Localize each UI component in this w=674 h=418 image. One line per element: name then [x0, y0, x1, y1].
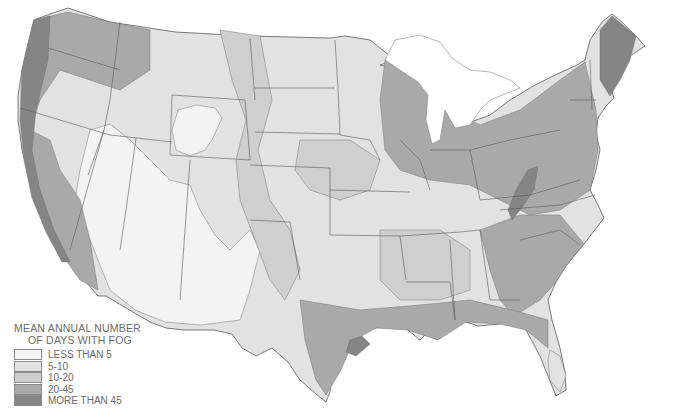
legend-label: 10-20	[48, 372, 74, 383]
legend-title-line2: OF DAYS WITH FOG	[14, 334, 194, 346]
zone-gt45-new-england	[600, 16, 636, 96]
legend: MEAN ANNUAL NUMBER OF DAYS WITH FOG LESS…	[14, 322, 194, 407]
legend-label: MORE THAN 45	[48, 395, 122, 406]
legend-label: LESS THAN 5	[48, 349, 112, 360]
legend-label: 5-10	[48, 361, 68, 372]
legend-swatch	[14, 395, 42, 406]
legend-item-20-45: 20-45	[14, 384, 194, 396]
legend-swatch	[14, 349, 42, 360]
legend-swatch	[14, 361, 42, 372]
legend-item-lt5: LESS THAN 5	[14, 349, 194, 361]
legend-swatch	[14, 384, 42, 395]
legend-label: 20-45	[48, 384, 74, 395]
legend-item-10-20: 10-20	[14, 372, 194, 384]
legend-title-line1: MEAN ANNUAL NUMBER	[14, 322, 141, 334]
legend-swatch	[14, 372, 42, 383]
zone-20-45-gulf	[300, 300, 548, 395]
legend-item-gt45: MORE THAN 45	[14, 395, 194, 407]
legend-title: MEAN ANNUAL NUMBER OF DAYS WITH FOG	[14, 322, 194, 346]
legend-item-5-10: 5-10	[14, 361, 194, 373]
